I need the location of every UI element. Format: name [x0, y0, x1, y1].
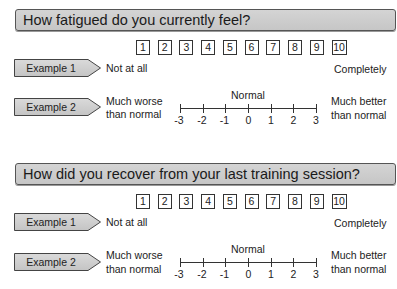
rating-option-3[interactable]: 3 — [179, 40, 193, 55]
tick-label: -3 — [169, 268, 189, 280]
low-anchor-line1: Much worse — [106, 95, 163, 108]
tick — [248, 104, 249, 113]
tick — [316, 258, 317, 267]
tick-label: -2 — [192, 268, 212, 280]
example-1-tag: Example 1 — [14, 213, 102, 231]
tick-label: 3 — [306, 268, 326, 280]
high-anchor-line2: than normal — [331, 109, 386, 122]
tick-label: 0 — [239, 114, 259, 126]
tick — [248, 258, 249, 267]
tick — [180, 258, 181, 267]
rating-option-6[interactable]: 6 — [245, 40, 259, 55]
tick — [180, 104, 181, 113]
tick — [293, 258, 294, 267]
question-section-1: How fatigued do you currently feel? 1 2 … — [0, 0, 397, 145]
question-title: How fatigued do you currently feel? — [15, 9, 396, 31]
tick — [203, 258, 204, 267]
tick — [271, 258, 272, 267]
example-2-label: Example 2 — [14, 253, 88, 271]
rating-option-1[interactable]: 1 — [136, 40, 150, 55]
rating-option-9[interactable]: 9 — [310, 194, 324, 209]
tick-label: 0 — [239, 268, 259, 280]
tick — [293, 104, 294, 113]
tick-label: 1 — [261, 114, 281, 126]
tick-label: -1 — [215, 114, 235, 126]
normal-label: Normal — [231, 89, 265, 102]
rating-option-1[interactable]: 1 — [136, 194, 150, 209]
tick-label: -3 — [169, 114, 189, 126]
tick-label: 1 — [261, 268, 281, 280]
example-1-label: Example 1 — [14, 213, 88, 231]
low-anchor-line2: than normal — [106, 108, 161, 121]
tick — [271, 104, 272, 113]
low-anchor: Not at all — [106, 62, 147, 75]
question-title: How did you recover from your last train… — [15, 163, 396, 185]
rating-option-8[interactable]: 8 — [288, 194, 302, 209]
tick-label: -2 — [192, 114, 212, 126]
tick-label: 2 — [284, 268, 304, 280]
high-anchor-line1: Much better — [331, 95, 386, 108]
rating-option-2[interactable]: 2 — [158, 194, 172, 209]
tick — [225, 104, 226, 113]
tick-label: -1 — [215, 268, 235, 280]
rating-option-3[interactable]: 3 — [179, 194, 193, 209]
example-1-tag: Example 1 — [14, 59, 102, 77]
example-2-tag: Example 2 — [14, 253, 102, 271]
question-section-2: How did you recover from your last train… — [0, 154, 397, 289]
low-anchor-line1: Much worse — [106, 249, 163, 262]
high-anchor-line1: Much better — [331, 249, 386, 262]
rating-option-4[interactable]: 4 — [201, 40, 215, 55]
tick — [316, 104, 317, 113]
high-anchor-line2: than normal — [331, 263, 386, 276]
rating-option-5[interactable]: 5 — [223, 194, 237, 209]
high-anchor: Completely — [334, 63, 387, 76]
tick — [225, 258, 226, 267]
rating-option-10[interactable]: 10 — [332, 194, 347, 209]
normal-label: Normal — [231, 243, 265, 256]
tick-label: 2 — [284, 114, 304, 126]
high-anchor: Completely — [334, 217, 387, 230]
example-2-label: Example 2 — [14, 98, 88, 116]
rating-option-8[interactable]: 8 — [288, 40, 302, 55]
tick-label: 3 — [306, 114, 326, 126]
example-2-tag: Example 2 — [14, 98, 102, 116]
rating-option-5[interactable]: 5 — [223, 40, 237, 55]
rating-option-4[interactable]: 4 — [201, 194, 215, 209]
rating-option-10[interactable]: 10 — [332, 40, 347, 55]
rating-option-7[interactable]: 7 — [266, 40, 280, 55]
low-anchor: Not at all — [106, 216, 147, 229]
rating-option-9[interactable]: 9 — [310, 40, 324, 55]
rating-option-7[interactable]: 7 — [266, 194, 280, 209]
rating-option-6[interactable]: 6 — [245, 194, 259, 209]
low-anchor-line2: than normal — [106, 263, 161, 276]
rating-option-2[interactable]: 2 — [158, 40, 172, 55]
example-1-label: Example 1 — [14, 59, 88, 77]
tick — [203, 104, 204, 113]
